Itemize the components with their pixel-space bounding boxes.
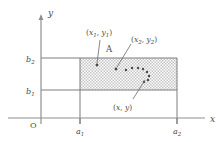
point-label-x1-y1: (x1, y1) [86, 28, 112, 38]
y-axis-arrowhead [39, 14, 44, 20]
origin-label: O [30, 121, 37, 130]
x-axis-label: x [210, 114, 215, 124]
y-axis-label: y [47, 8, 54, 18]
y-tick-label-b1: b1 [26, 87, 35, 97]
sample-point-1-dot [96, 64, 99, 67]
region-a-shaded-rect [80, 58, 177, 90]
region-a-label: A [105, 44, 113, 54]
x-tick-label-a2: a2 [173, 127, 182, 137]
math-figure: y x O b2 b1 a1 a2 A [0, 0, 222, 142]
x-tick-label-a1: a1 [76, 127, 84, 137]
point-label-x-y: (x, y) [113, 103, 132, 112]
figure-canvas: y x O b2 b1 a1 a2 A [0, 0, 222, 142]
sample-point-2-dot [115, 68, 118, 71]
y-tick-label-b2: b2 [26, 55, 35, 65]
point-label-x2-y2: (x2, y2) [131, 35, 157, 45]
